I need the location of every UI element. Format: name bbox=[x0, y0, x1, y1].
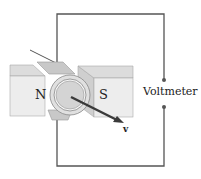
voltmeter-label: Voltmeter bbox=[143, 86, 198, 97]
conductor-top-plate bbox=[37, 62, 75, 74]
north-pole-label: N bbox=[35, 88, 46, 101]
voltmeter-terminal-bottom bbox=[162, 105, 166, 109]
velocity-label: v bbox=[123, 125, 128, 134]
conductor-core bbox=[56, 81, 84, 109]
north-magnet-top bbox=[10, 65, 45, 76]
voltmeter-terminal-top bbox=[162, 78, 166, 82]
generator-diagram: N S Voltmeter v bbox=[0, 0, 201, 179]
south-pole-label: S bbox=[99, 88, 108, 101]
